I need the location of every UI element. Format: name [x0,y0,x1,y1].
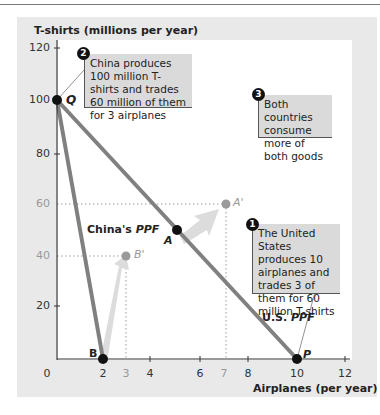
y-tick-80: 80 [24,147,50,160]
y-tick-100: 100 [24,93,50,106]
callout-1-badge: 1 [246,218,259,231]
china-ppf-suffix: PPF [136,223,160,236]
label-q: Q [66,93,76,107]
x-tick-10: 10 [287,367,307,380]
point-a-prime [222,200,231,209]
point-p [292,354,302,364]
y-tick-40: 40 [24,249,50,262]
y-tick-60: 60 [24,197,50,210]
china-ppf-prefix: China's [87,223,136,236]
china-ppf-label: China's PPF [87,223,159,236]
x-tick-12: 12 [335,367,355,380]
callout-2: China produces 100 million T-shirts and … [84,54,192,108]
y-tick-120: 120 [24,41,50,54]
y-axis-title: T-shirts (millions per year) [34,24,198,37]
callout-3-badge: 3 [252,88,265,101]
callout-1: The United States produces 10 airplanes … [252,224,340,294]
x-tick-2: 2 [93,367,113,380]
x-tick-3: 3 [116,367,136,380]
arrow-b-to-bprime [101,255,129,356]
x-tick-0: 0 [37,367,57,380]
label-b-prime: B' [134,248,145,261]
point-b-prime [122,252,131,261]
x-tick-8: 8 [238,367,258,380]
point-b [98,354,108,364]
callout-3-text: Both countries consume more of both good… [264,98,323,162]
label-a-prime: A' [233,196,244,209]
callout-2-badge: 2 [77,47,90,60]
point-a [172,225,182,235]
label-b: B [89,347,97,360]
x-tick-6: 6 [190,367,210,380]
callout-3: Both countries consume more of both good… [258,95,332,138]
point-q [52,95,62,105]
label-p: P [303,348,311,361]
x-axis-title: Airplanes (per year) [253,382,378,395]
y-tick-20: 20 [24,299,50,312]
label-a: A [164,234,173,247]
x-tick-4: 4 [140,367,160,380]
x-tick-7: 7 [214,367,234,380]
